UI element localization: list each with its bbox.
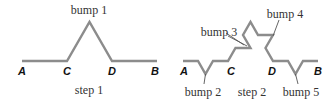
point-b-label: B [151,65,159,77]
point-d-label: D [108,65,116,77]
bump1-label: bump 1 [71,3,107,17]
step2-point-a-label: A [179,65,188,77]
bump2-label: bump 2 [185,85,221,99]
step1-figure: bump 1 A C D B step 1 [17,3,159,97]
bump4-leader [273,20,279,36]
bump5-leader [296,74,299,84]
koch-bump-diagram: bump 1 A C D B step 1 bump 2 bump 3 bump… [0,0,335,104]
step2-figure: bump 2 bump 3 bump 4 bump 5 A C D B step… [179,7,322,99]
point-c-label: C [63,65,72,77]
step2-point-b-label: B [314,65,322,77]
bump4-label: bump 4 [267,7,303,21]
step1-caption: step 1 [75,83,103,97]
step2-point-d-label: D [268,65,276,77]
bump5-label: bump 5 [283,85,319,99]
step2-point-c-label: C [227,65,236,77]
bump3-label: bump 3 [201,25,237,39]
step2-caption: step 2 [238,85,266,99]
bump2-leader [204,74,206,84]
diagram-canvas: bump 1 A C D B step 1 bump 2 bump 3 bump… [0,0,335,104]
step1-curve [22,22,157,61]
point-a-label: A [17,65,26,77]
